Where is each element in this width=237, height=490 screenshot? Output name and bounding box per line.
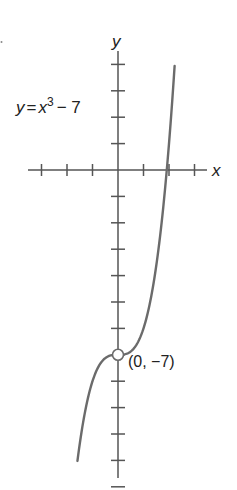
equation-label: y=x3− 7 <box>15 95 81 117</box>
stray-dot <box>1 41 3 43</box>
cubic-function-graph: y x y=x3− 7 (0, −7) <box>0 0 237 490</box>
point-annotation: (0, −7) <box>128 353 175 370</box>
y-axis-label: y <box>111 32 122 51</box>
curve-cubic <box>77 66 174 461</box>
x-axis-label: x <box>211 161 221 180</box>
axes <box>28 51 207 487</box>
open-circle-marker <box>113 349 124 360</box>
